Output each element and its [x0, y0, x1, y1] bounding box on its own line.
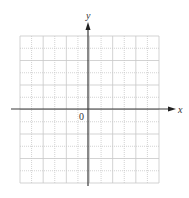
- y-axis-label: y: [85, 10, 91, 21]
- y-axis-arrow-icon: [86, 22, 91, 30]
- axes: [11, 22, 176, 186]
- x-axis-arrow-icon: [168, 107, 176, 112]
- origin-label: 0: [79, 111, 84, 122]
- x-axis-label: x: [177, 104, 183, 115]
- coordinate-plane: x y 0: [0, 0, 189, 198]
